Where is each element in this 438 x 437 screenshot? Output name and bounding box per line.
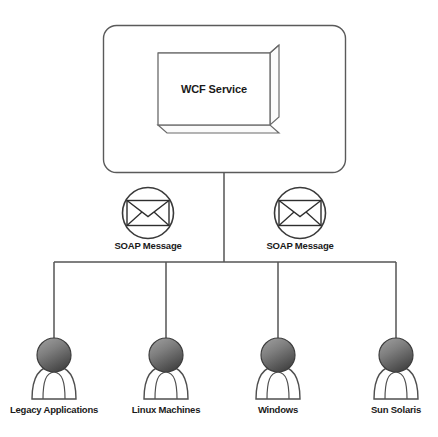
soap-message-badge-1	[123, 188, 174, 239]
soap-message-label-1: SOAP Message	[98, 240, 198, 251]
client-label-legacy-applications: Legacy Applications	[4, 404, 104, 415]
service-label: WCF Service	[158, 83, 270, 95]
envelope-icon-2	[279, 201, 321, 226]
soap-message-label-2: SOAP Message	[250, 240, 350, 251]
diagram-canvas: WCF Service SOAP Message SOAP Message Le…	[0, 0, 438, 437]
person-icon-windows	[256, 338, 300, 399]
person-icon-linux-machines	[144, 338, 188, 399]
service-box-side-face	[270, 45, 279, 125]
client-label-sun-solaris: Sun Solaris	[346, 404, 438, 415]
envelope-icon-1	[127, 201, 169, 226]
soap-message-badge-2	[275, 188, 326, 239]
service-box-bottom-face	[158, 125, 279, 133]
client-label-windows: Windows	[228, 404, 328, 415]
client-label-linux-machines: Linux Machines	[116, 404, 216, 415]
person-icon-sun-solaris	[374, 338, 418, 399]
person-icon-legacy-applications	[32, 338, 76, 399]
diagram-graphics	[0, 0, 438, 437]
